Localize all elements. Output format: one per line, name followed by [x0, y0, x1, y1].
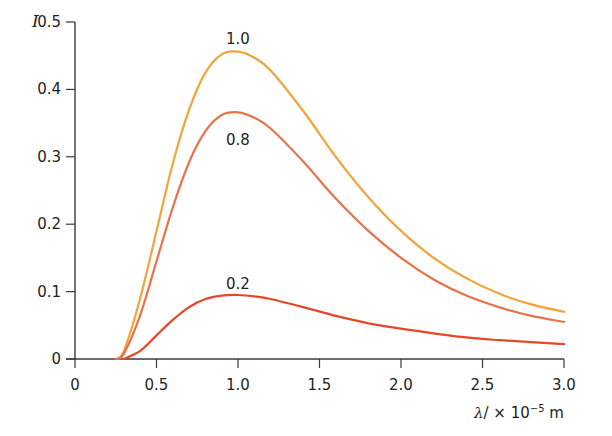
x-axis-title: λ/ × 10−5 m — [473, 403, 564, 422]
curve-1.0 — [116, 51, 564, 359]
y-tick-label: 0.3 — [37, 148, 61, 166]
chart: 00.10.20.30.40.500.51.01.52.02.53.0 1.00… — [0, 0, 612, 436]
curve-label: 1.0 — [226, 30, 250, 48]
x-tick-label: 0.5 — [145, 376, 169, 394]
x-tick-label: 2.5 — [471, 376, 495, 394]
curves — [116, 51, 564, 359]
y-axis-title: I — [31, 11, 39, 31]
x-tick-label: 1.0 — [226, 376, 250, 394]
y-tick-label: 0.4 — [37, 80, 61, 98]
x-tick-label: 3.0 — [552, 376, 576, 394]
x-tick-label: 0 — [70, 376, 80, 394]
curve-label: 0.2 — [226, 275, 250, 293]
curve-label: 0.8 — [226, 131, 250, 149]
axes: 00.10.20.30.40.500.51.01.52.02.53.0 — [37, 13, 576, 394]
y-tick-label: 0.5 — [37, 13, 61, 31]
lambda-symbol: λ — [473, 404, 484, 422]
curve-labels: 1.00.80.2 — [226, 30, 250, 293]
y-tick-label: 0.1 — [37, 283, 61, 301]
y-tick-label: 0 — [51, 350, 61, 368]
y-tick-label: 0.2 — [37, 215, 61, 233]
curve-0.2 — [124, 295, 564, 359]
curve-0.8 — [116, 112, 564, 359]
x-tick-label: 1.5 — [308, 376, 332, 394]
x-tick-label: 2.0 — [389, 376, 413, 394]
